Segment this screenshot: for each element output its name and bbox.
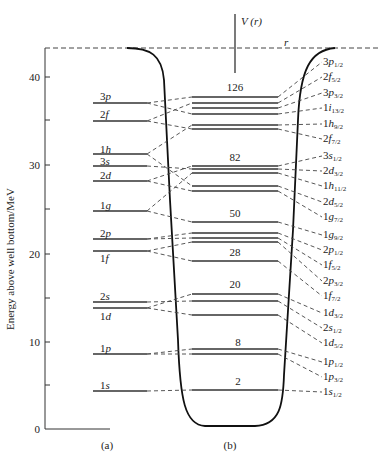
- orbital-label-2s: 2s: [100, 291, 110, 302]
- magic-number-2: 2: [235, 376, 241, 387]
- sublevel-label-1h11/2: 1h11/2: [323, 180, 346, 193]
- magic-number-50: 50: [230, 208, 241, 219]
- sublevel-label-2p1/2: 2p1/2: [323, 244, 343, 257]
- magic-number-28: 28: [230, 247, 241, 258]
- y-tick-label: 30: [18, 160, 40, 171]
- panel-a-caption: (a): [101, 440, 113, 451]
- y-tick-label: 40: [18, 72, 40, 83]
- sublevel-label-1s1/2: 1s1/2: [323, 386, 342, 399]
- sublevel-label-2d3/2: 2d3/2: [323, 165, 343, 178]
- orbital-label-2d: 2d: [100, 170, 111, 181]
- y-tick-label: 0: [18, 424, 40, 435]
- sublevel-label-2s1/2: 2s1/2: [323, 322, 342, 335]
- sublevel-label-2d5/2: 2d5/2: [323, 196, 343, 209]
- sublevel-label-3s1/2: 3s1/2: [323, 150, 342, 163]
- potential-well-curve: [127, 48, 335, 426]
- sublevel-label-1h9/2: 1h9/2: [323, 118, 343, 131]
- orbital-label-2f: 2f: [100, 109, 109, 120]
- orbital-label-3s: 3s: [100, 156, 110, 167]
- magic-number-8: 8: [235, 337, 241, 348]
- magic-number-82: 82: [230, 152, 241, 163]
- magic-number-20: 20: [230, 279, 241, 290]
- connectors-right: [278, 62, 322, 392]
- sublevel-label-2f5/2: 2f5/2: [323, 71, 341, 84]
- sublevel-label-2p3/2: 2p3/2: [323, 275, 343, 288]
- panel-b-caption: (b): [224, 440, 237, 451]
- orbital-label-1g: 1g: [100, 200, 111, 211]
- y-tick-label: 20: [18, 249, 40, 260]
- sublevel-label-1d3/2: 1d3/2: [323, 307, 343, 320]
- orbital-label-1f: 1f: [100, 253, 109, 264]
- sublevel-label-1f7/2: 1f7/2: [323, 290, 341, 303]
- sublevel-label-1d5/2: 1d5/2: [323, 337, 343, 350]
- sublevel-label-1p3/2: 1p3/2: [323, 371, 343, 384]
- y-tick-label: 10: [18, 337, 40, 348]
- orbital-label-3p: 3p: [100, 91, 111, 102]
- radius-label: r: [284, 37, 288, 48]
- sublevel-label-3p3/2: 3p3/2: [323, 87, 343, 100]
- sublevel-label-1f5/2: 1f5/2: [323, 259, 341, 272]
- connectors-left: [147, 97, 192, 391]
- y-axis-label: Energy above well bottom/MeV: [4, 188, 16, 330]
- magic-number-126: 126: [227, 82, 244, 93]
- sublevel-label-1g7/2: 1g7/2: [323, 211, 343, 224]
- orbital-label-1p: 1p: [100, 343, 111, 354]
- sublevel-label-1g9/2: 1g9/2: [323, 229, 343, 242]
- orbital-label-2p: 2p: [100, 228, 111, 239]
- sublevel-label-1i13/2: 1i13/2: [323, 102, 344, 115]
- potential-label: V (r): [241, 16, 262, 27]
- orbital-label-1s: 1s: [100, 380, 110, 391]
- orbital-label-1h: 1h: [100, 144, 111, 155]
- sublevel-label-2f7/2: 2f7/2: [323, 133, 341, 146]
- sublevel-label-3p1/2: 3p1/2: [323, 56, 343, 69]
- sublevel-label-1p1/2: 1p1/2: [323, 356, 343, 369]
- orbital-label-1d: 1d: [100, 311, 111, 322]
